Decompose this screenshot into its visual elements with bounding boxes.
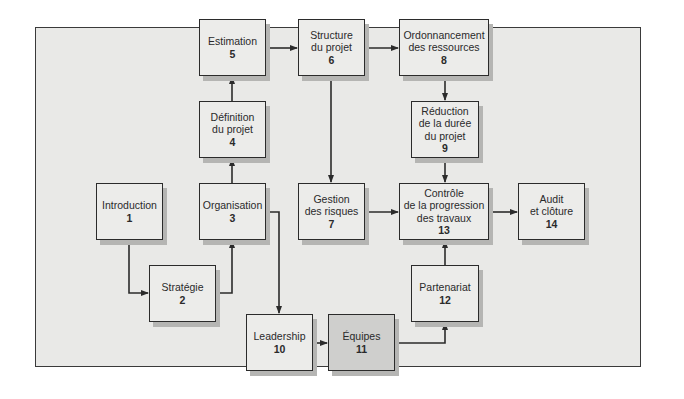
node-number: 7 (329, 218, 335, 231)
node-number: 4 (230, 136, 236, 149)
node-label: Équipes (343, 330, 381, 343)
node-partenariat: Partenariat 12 (411, 265, 479, 322)
node-label: Ordonnancement (403, 29, 484, 42)
node-number: 8 (441, 54, 447, 67)
node-number: 2 (180, 294, 186, 307)
node-number: 6 (329, 54, 335, 67)
node-label: du projet (212, 123, 253, 136)
node-label: Stratégie (161, 281, 203, 294)
node-label: des travaux (417, 212, 471, 225)
node-label: Contrôle (424, 187, 464, 200)
node-definition-du-projet: Définition du projet 4 (199, 101, 266, 158)
node-label: Gestion (313, 193, 349, 206)
node-controle-de-la-progression: Contrôle de la progression des travaux 1… (399, 183, 489, 240)
node-strategie: Stratégie 2 (149, 265, 216, 322)
node-ordonnancement-des-ressources: Ordonnancement des ressources 8 (399, 19, 489, 76)
node-number: 5 (230, 48, 236, 61)
node-label: Partenariat (419, 281, 470, 294)
node-estimation: Estimation 5 (199, 19, 266, 76)
node-label: du projet (311, 41, 352, 54)
diagram-canvas: Introduction 1 Stratégie 2 Organisation … (0, 0, 684, 399)
node-number: 9 (442, 142, 448, 155)
node-label: des ressources (408, 41, 479, 54)
node-number: 14 (546, 218, 558, 231)
node-leadership: Leadership 10 (246, 314, 313, 371)
node-organisation: Organisation 3 (199, 183, 266, 240)
node-label: Structure (310, 29, 353, 42)
node-label: de la durée (419, 117, 472, 130)
node-number: 12 (439, 294, 451, 307)
node-label: Définition (211, 111, 255, 124)
node-label: Organisation (203, 199, 263, 212)
node-number: 3 (230, 212, 236, 225)
node-equipes: Équipes 11 (328, 314, 395, 371)
node-number: 10 (274, 343, 286, 356)
node-number: 1 (127, 212, 133, 225)
node-introduction: Introduction 1 (96, 183, 163, 240)
node-label: Estimation (208, 35, 257, 48)
node-audit-et-cloture: Audit et clôture 14 (518, 183, 585, 240)
node-label: des risques (305, 205, 359, 218)
node-label: et clôture (530, 205, 573, 218)
node-label: de la progression (404, 199, 485, 212)
node-number: 11 (356, 343, 367, 356)
node-gestion-des-risques: Gestion des risques 7 (298, 183, 365, 240)
node-label: Leadership (254, 330, 306, 343)
node-label: Audit (540, 193, 564, 206)
node-reduction-de-la-duree: Réduction de la durée du projet 9 (411, 101, 479, 158)
node-label: Réduction (421, 105, 468, 118)
node-label: Introduction (102, 199, 157, 212)
node-label: du projet (425, 130, 466, 143)
node-number: 13 (438, 224, 450, 237)
node-structure-du-projet: Structure du projet 6 (298, 19, 365, 76)
